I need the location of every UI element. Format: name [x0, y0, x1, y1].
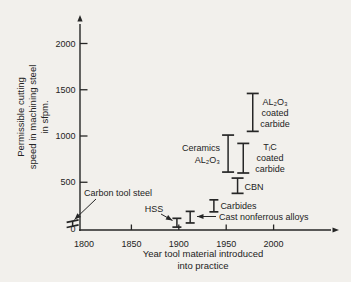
- x-axis-label-line1: Year tool material introduced: [143, 248, 264, 259]
- cutting-speed-figure: Permissible cutting speed in machining s…: [0, 0, 351, 282]
- y-axis-label-line2: speed in machining steel: [27, 65, 38, 170]
- label-tic-coated-carbide-line1: TᵢC: [263, 142, 277, 152]
- label-carbon-tool-steel: Carbon tool steel: [84, 188, 152, 198]
- label-al2o3-coated-carbide-line1: AL₂O₃: [262, 97, 288, 107]
- label-al2o3-coated-carbide-line3: carbide: [260, 119, 290, 129]
- y-axis-arrowhead: [77, 15, 82, 22]
- label-tic-coated-carbide-line3: carbide: [255, 164, 285, 174]
- y-axis-label-line1: Permissible cutting: [15, 77, 26, 157]
- label-al2o3-coated-carbide-line2: coated: [261, 108, 288, 118]
- label-carbides: Carbides: [220, 201, 257, 211]
- y-tick-label-500: 500: [60, 177, 75, 187]
- chart-canvas: Permissible cutting speed in machining s…: [0, 0, 351, 282]
- x-axis-arrowhead: [333, 227, 340, 232]
- label-cbn: CBN: [245, 182, 264, 192]
- x-axis-label-line2: into practice: [177, 260, 228, 271]
- annotation-arrowhead-hss: [166, 215, 173, 220]
- y-axis-label-line3: in sfpm.: [39, 100, 50, 133]
- x-tick-label-1950: 1950: [216, 239, 236, 249]
- x-tick-label-1850: 1850: [121, 239, 141, 249]
- x-tick-label-1900: 1900: [169, 239, 189, 249]
- annotation-arrowhead-cast-nonferrous: [197, 214, 204, 219]
- label-cast-nonferrous: Cast nonferrous alloys: [219, 212, 309, 222]
- x-tick-label-2000: 2000: [264, 239, 284, 249]
- plot-area: 050010001500200018001850190019502000Carb…: [55, 15, 339, 249]
- label-tic-coated-carbide-line2: coated: [256, 153, 283, 163]
- y-tick-label-2000: 2000: [55, 39, 75, 49]
- x-tick-label-1800: 1800: [74, 239, 94, 249]
- y-tick-label-1500: 1500: [55, 85, 75, 95]
- label-hss: HSS: [145, 204, 164, 214]
- label-ceramics-line2: AL₂O₃: [195, 155, 221, 165]
- y-tick-label-1000: 1000: [55, 131, 75, 141]
- label-ceramics-line1: Ceramics: [182, 143, 221, 153]
